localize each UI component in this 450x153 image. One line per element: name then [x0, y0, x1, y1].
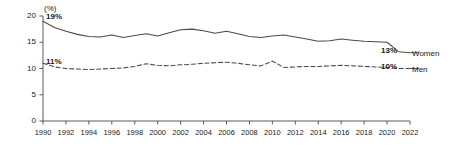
legend-label-men: Men	[412, 66, 428, 74]
y-axis	[40, 16, 44, 121]
end-label-women: 13%	[381, 47, 397, 55]
end-label-men: 10%	[381, 63, 397, 71]
start-label-women: 19%	[46, 13, 62, 21]
line-chart: (%) 20 15 10 5 0 1990 1992 1994 1996 199…	[0, 0, 450, 153]
legend-label-women: Women	[412, 50, 439, 58]
series-line-women	[43, 21, 410, 53]
x-tick-label-2022: 2022	[395, 129, 425, 137]
x-axis	[43, 121, 410, 125]
y-tick-label-10: 10	[20, 65, 36, 73]
start-label-men: 11%	[46, 58, 62, 66]
y-tick-label-15: 15	[20, 38, 36, 46]
y-tick-label-5: 5	[20, 91, 36, 99]
y-tick-label-0: 0	[20, 117, 36, 125]
series-line-men	[43, 61, 410, 69]
y-tick-label-20: 20	[20, 12, 36, 20]
